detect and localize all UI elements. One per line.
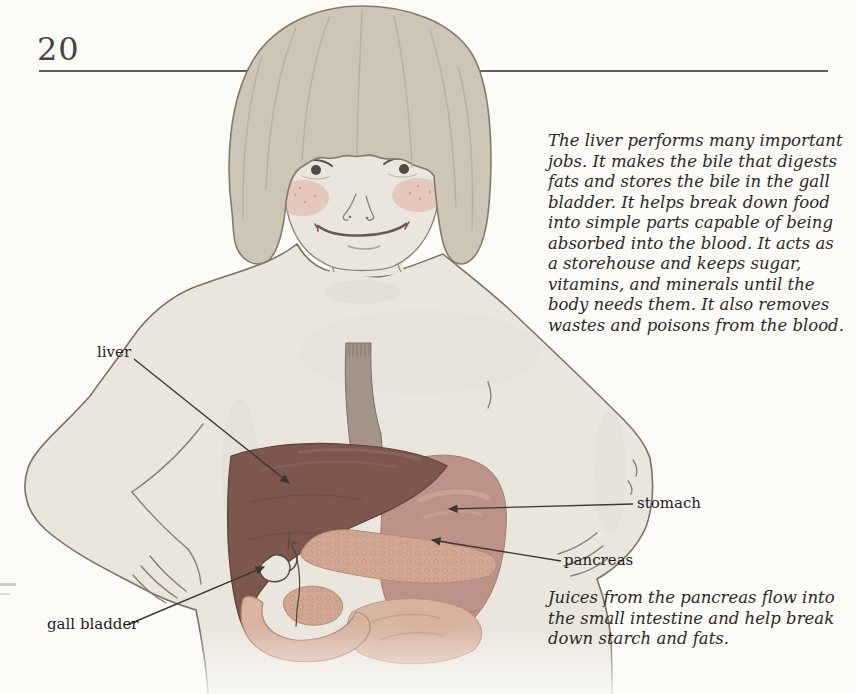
pancreas-label: pancreas: [564, 551, 633, 569]
book-page: 20: [0, 0, 856, 694]
liver-paragraph: The liver performs many important jobs. …: [548, 131, 844, 336]
page-number: 20: [37, 30, 80, 68]
liver-label: liver: [97, 343, 131, 361]
gall-bladder-label: gall bladder: [47, 615, 139, 633]
stomach-label: stomach: [637, 494, 701, 512]
pancreas-paragraph: Juices from the pancreas flow into the s…: [548, 588, 848, 650]
